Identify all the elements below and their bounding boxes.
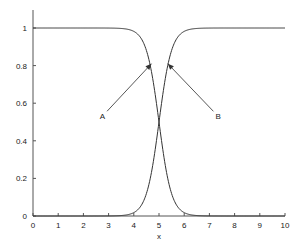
x-tick-label: 6 [182, 221, 187, 230]
y-tick-label: 0.2 [16, 174, 28, 183]
x-tick-label: 5 [157, 221, 162, 230]
y-tick-label: 0.8 [16, 62, 28, 71]
y-tick-label: 0 [23, 212, 28, 221]
x-tick-label: 9 [258, 221, 263, 230]
curve-b [33, 28, 285, 216]
x-tick-label: 8 [232, 221, 237, 230]
x-axis-label: x [157, 232, 161, 241]
y-tick-label: 0.6 [16, 99, 28, 108]
sigmoid-chart-svg: 01234567891000.20.40.60.81 AB x [0, 0, 302, 252]
annotation-label-a: A [100, 112, 106, 121]
x-tick-label: 7 [207, 221, 212, 230]
x-tick-label: 10 [281, 221, 290, 230]
y-tick-label: 1 [23, 24, 28, 33]
x-tick-label: 1 [56, 221, 61, 230]
annotation-arrow-b [168, 64, 214, 112]
chart: 01234567891000.20.40.60.81 AB x [0, 0, 302, 252]
x-tick-label: 4 [132, 221, 137, 230]
annotation-label-b: B [216, 112, 221, 121]
curves [33, 28, 285, 216]
x-tick-label: 0 [31, 221, 36, 230]
annotation-arrow-a [107, 64, 151, 112]
y-tick-label: 0.4 [16, 137, 28, 146]
x-tick-label: 3 [106, 221, 111, 230]
x-tick-label: 2 [81, 221, 86, 230]
axes: 01234567891000.20.40.60.81 [16, 10, 290, 230]
